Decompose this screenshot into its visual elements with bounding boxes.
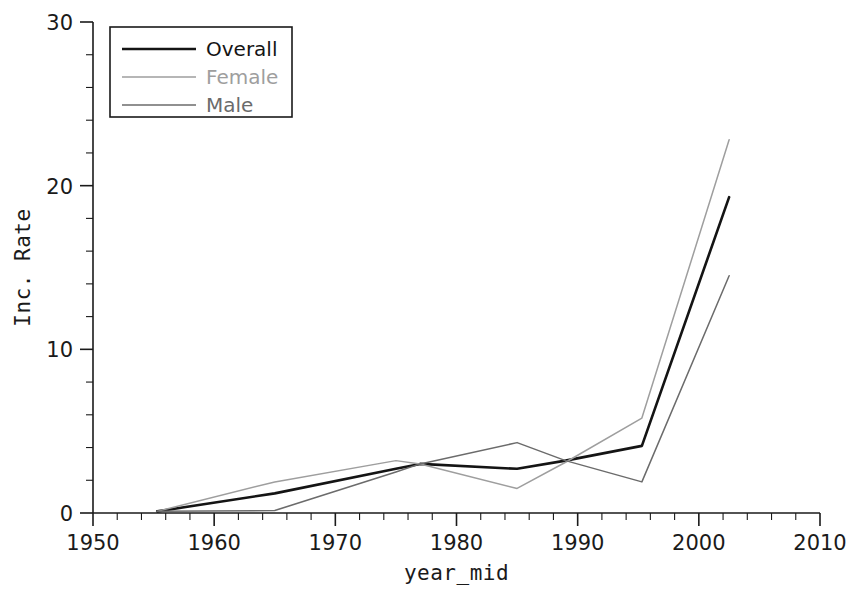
x-tick-label: 1960 bbox=[187, 531, 240, 555]
x-tick-label: 1950 bbox=[66, 531, 119, 555]
legend-label-female: Female bbox=[206, 65, 278, 89]
legend-label-male: Male bbox=[206, 93, 253, 117]
series-line-overall bbox=[157, 197, 729, 511]
chart-legend[interactable]: OverallFemaleMale bbox=[110, 27, 292, 117]
series-line-female bbox=[157, 140, 729, 512]
legend-label-overall: Overall bbox=[206, 37, 277, 61]
x-tick-label: 1970 bbox=[309, 531, 362, 555]
chart-container: 19501960197019801990200020100102030 Over… bbox=[0, 0, 863, 596]
data-series bbox=[157, 140, 729, 512]
line-chart: 19501960197019801990200020100102030 Over… bbox=[0, 0, 863, 596]
y-tick-label: 30 bbox=[46, 11, 73, 35]
y-tick-label: 10 bbox=[46, 338, 73, 362]
x-tick-label: 2010 bbox=[793, 531, 846, 555]
y-tick-label: 0 bbox=[60, 502, 73, 526]
y-tick-label: 20 bbox=[46, 175, 73, 199]
axis-titles: year_midInc. Rate bbox=[11, 208, 509, 585]
series-line-male bbox=[157, 276, 729, 512]
x-tick-label: 1990 bbox=[551, 531, 604, 555]
x-axis-title: year_mid bbox=[404, 561, 509, 585]
x-tick-label: 2000 bbox=[672, 531, 725, 555]
x-tick-label: 1980 bbox=[430, 531, 483, 555]
y-axis-title: Inc. Rate bbox=[11, 208, 35, 326]
